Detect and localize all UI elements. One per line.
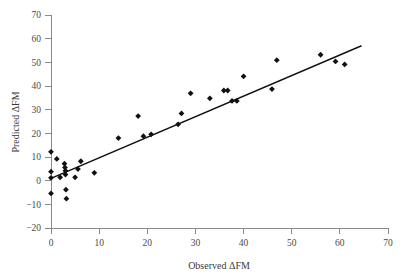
x-tick-label-0: 0 [49,238,54,248]
data-point [342,62,348,68]
data-point [241,73,247,79]
x-tick-label-10: 10 [94,238,104,248]
data-point [188,90,194,96]
data-point [63,187,69,193]
data-point [116,135,122,141]
data-point [274,57,280,63]
data-point [48,149,54,155]
y-tick-label--10: −10 [26,200,41,210]
plot-area: −20−10010203040506070 010203040506070 Ob… [0,0,403,278]
x-axis-tick-labels: 010203040506070 [49,238,393,248]
y-tick-label-30: 30 [32,105,42,115]
data-point [135,113,141,119]
y-tick-label--20: −20 [26,223,41,233]
data-point [91,170,97,176]
axes [51,15,388,228]
x-tick-label-20: 20 [143,238,153,248]
y-axis-title: Predicted ΔFM [10,91,21,152]
y-tick-label-0: 0 [36,176,41,186]
y-tick-label-60: 60 [32,34,42,44]
y-tick-label-50: 50 [32,58,42,68]
y-tick-label-20: 20 [32,129,42,139]
y-axis-tick-labels: −20−10010203040506070 [26,10,41,233]
data-point [78,158,84,164]
data-point [225,88,231,94]
x-tick-label-60: 60 [335,238,345,248]
y-tick-label-70: 70 [32,10,42,20]
data-point [48,191,54,197]
data-point [72,174,78,180]
data-point [179,111,185,117]
y-tick-label-10: 10 [32,152,42,162]
y-tick-label-40: 40 [32,81,42,91]
data-point [48,169,54,175]
x-axis-title: Observed ΔFM [188,260,250,271]
y-axis-ticks [45,15,51,228]
x-tick-label-50: 50 [287,238,297,248]
data-point [175,121,181,127]
data-point [64,196,70,202]
regression-line [51,46,362,179]
x-tick-label-40: 40 [239,238,249,248]
scatter-chart: −20−10010203040506070 010203040506070 Ob… [0,0,403,278]
data-point [54,156,60,162]
data-point [333,58,339,64]
x-tick-label-30: 30 [191,238,201,248]
data-point [48,175,54,181]
data-point [207,95,213,101]
data-point [318,52,324,58]
x-axis-ticks [51,228,388,234]
data-points [48,52,347,202]
x-tick-label-70: 70 [383,238,393,248]
data-point [269,86,275,92]
